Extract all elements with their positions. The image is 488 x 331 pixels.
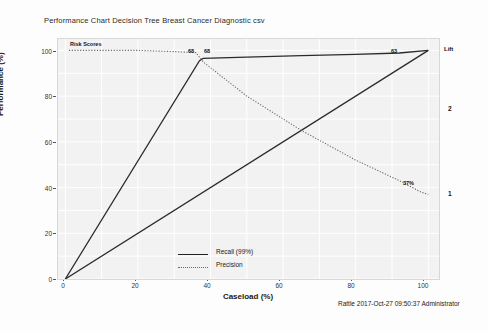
annotation-precision-endpoint-37pct: 37% <box>403 180 414 186</box>
x-tick-label-80: 80 <box>347 282 354 289</box>
annotation-value-68-left: 68 <box>188 48 194 54</box>
y-tick-mark-40 <box>53 188 56 189</box>
legend-label-recall: Recall (99%) <box>216 248 253 255</box>
x-axis-label: Caseload (%) <box>223 292 273 301</box>
y-tick-mark-80 <box>53 96 56 97</box>
annotation-risk-scores: Risk Scores <box>70 41 102 47</box>
x-tick-label-60: 60 <box>275 282 282 289</box>
legend-key-solid-line <box>178 254 208 255</box>
annotation-value-68-right: 68 <box>204 48 210 54</box>
legend-entry-recall: Recall (99%) <box>178 248 298 261</box>
baseline-series <box>65 50 428 279</box>
chart-title: Performance Chart Decision Tree Breast C… <box>44 16 265 25</box>
plot-area: Risk Scores 68 68 63 37% <box>57 38 440 280</box>
precision-series <box>69 50 428 194</box>
y-tick-label-80: 80 <box>45 93 52 100</box>
legend-label-precision: Precision <box>216 261 243 268</box>
lift-tick-label-1: 1 <box>448 190 452 197</box>
y-tick-mark-100 <box>53 51 56 52</box>
y-axis-label: Performance (%) <box>0 52 5 116</box>
performance-chart-screenshot: Performance Chart Decision Tree Breast C… <box>0 0 488 331</box>
y-tick-mark-0 <box>53 279 56 280</box>
y-tick-label-0: 0 <box>48 276 52 283</box>
chart-legend: Recall (99%) Precision <box>178 248 298 274</box>
y-tick-mark-60 <box>53 142 56 143</box>
lift-axis-label: Lift <box>444 46 453 52</box>
x-tick-label-40: 40 <box>203 282 210 289</box>
x-tick-label-0: 0 <box>61 282 65 289</box>
chart-footer-credit: Rattle 2017-Oct-27 09:50:37 Administrato… <box>338 300 460 307</box>
legend-key-dotted-line <box>178 267 208 268</box>
legend-entry-precision: Precision <box>178 261 298 274</box>
y-tick-label-20: 20 <box>45 230 52 237</box>
y-tick-mark-20 <box>53 233 56 234</box>
lift-tick-label-2: 2 <box>448 105 452 112</box>
y-tick-label-40: 40 <box>45 185 52 192</box>
y-tick-label-100: 100 <box>41 48 52 55</box>
x-tick-label-20: 20 <box>131 282 138 289</box>
annotation-value-63: 63 <box>391 48 397 54</box>
x-tick-label-100: 100 <box>418 282 429 289</box>
y-tick-label-60: 60 <box>45 139 52 146</box>
data-series-layer <box>58 39 439 279</box>
